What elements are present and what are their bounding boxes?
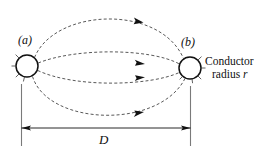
conductor-radius-caption: Conductor radius r (205, 55, 254, 81)
conductor-b-label: (b) (181, 36, 195, 49)
conductor-a-label: (a) (18, 34, 32, 47)
figure-container: (a) (b) D Conductor radius r (0, 0, 264, 157)
conductor-b-circle (179, 57, 201, 79)
radius-word: radius (212, 68, 240, 80)
inner-upper-flux-arc (38, 52, 179, 64)
stub-a-lower (23, 77, 24, 82)
radial-stubs-group (12, 55, 206, 84)
arrowhead-outer-top-arc (134, 18, 144, 25)
radius-symbol: r (240, 68, 247, 80)
stub-a-lower-left (16, 74, 19, 77)
outer-top-flux-arc (35, 19, 184, 59)
stub-b-upper-right (198, 57, 202, 61)
stub-b-lower-right (198, 76, 201, 79)
outer-bottom-flux-arc (33, 77, 186, 116)
flux-arrowheads-group (134, 18, 145, 117)
stub-b-lower (192, 79, 193, 83)
conductor-a-circle (16, 55, 38, 77)
conductor-caption-word: Conductor (205, 55, 254, 67)
dimension-line-group (22, 125, 191, 130)
arrowhead-inner-lower-arc (135, 75, 145, 81)
separation-distance-label: D (99, 133, 108, 147)
inner-lower-flux-arc (38, 71, 180, 84)
stub-b-lower-left (180, 76, 183, 79)
arrowhead-outer-bottom-arc (134, 110, 144, 117)
stub-a-upper-left (16, 55, 20, 59)
flux-lines-group (33, 19, 186, 115)
arrowhead-inner-upper-arc (135, 60, 145, 66)
conductor-radius-line: radius r (205, 68, 254, 81)
